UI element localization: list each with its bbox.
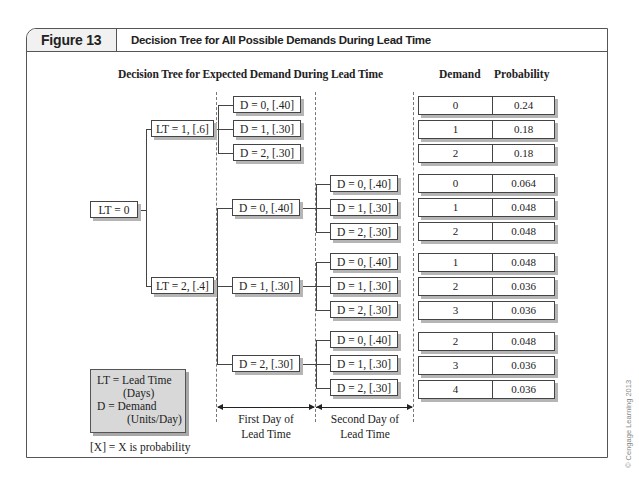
figure-title: Decision Tree for All Possible Demands D… — [131, 29, 431, 51]
connector — [316, 286, 330, 287]
result-probability: 0.24 — [493, 97, 554, 114]
connector — [316, 340, 330, 341]
connector — [300, 286, 316, 287]
second-day-label-line2: Lead Time — [318, 427, 412, 442]
connector — [316, 262, 330, 263]
result-row: 30.036 — [418, 301, 555, 320]
lt2-day2-node: D = 1, [.30] — [330, 277, 398, 294]
result-probability: 0.048 — [493, 223, 554, 240]
result-probability: 0.036 — [493, 357, 554, 374]
result-demand: 3 — [419, 302, 493, 319]
result-row: 10.048 — [418, 198, 555, 217]
result-demand: 1 — [419, 254, 493, 271]
result-row: 10.048 — [418, 253, 555, 272]
legend-lt-unit: (Days) — [97, 387, 185, 400]
result-row: 10.18 — [418, 120, 555, 139]
legend-d: D = Demand — [97, 400, 185, 413]
connector — [218, 153, 234, 154]
legend-d-unit: (Units/Day) — [97, 413, 185, 426]
diagram-title: Decision Tree for Expected Demand During… — [118, 68, 383, 80]
arrow-right-icon — [309, 404, 315, 410]
result-row: 00.24 — [418, 96, 555, 115]
result-demand: 0 — [419, 175, 493, 192]
connector — [138, 210, 146, 211]
lt2-node: LT = 2, [.4] — [151, 277, 214, 294]
connector — [217, 208, 233, 209]
arrow-left-icon — [217, 404, 223, 410]
arrow-left-icon — [316, 404, 322, 410]
connector — [316, 232, 330, 233]
result-demand: 2 — [419, 333, 493, 350]
result-demand: 1 — [419, 199, 493, 216]
figure-header: Figure 13 Decision Tree for All Possible… — [27, 29, 607, 52]
result-probability: 0.036 — [493, 381, 554, 398]
first-day-label: First Day of Lead Time — [222, 412, 310, 442]
lt1-day1-d1: D = 1, [.30] — [233, 120, 301, 137]
result-probability: 0.048 — [493, 199, 554, 216]
lt2-day2-node: D = 2, [.30] — [330, 379, 398, 396]
result-row: 20.18 — [418, 144, 555, 163]
connector — [300, 364, 316, 365]
lt1-node: LT = 1, [.6] — [151, 120, 214, 137]
result-row: 30.036 — [418, 356, 555, 375]
lt2-day2-node: D = 0, [.40] — [330, 331, 398, 348]
lt1-day1-d2: D = 2, [.30] — [233, 144, 301, 161]
result-probability: 0.18 — [493, 121, 554, 138]
lt2-day2-node: D = 0, [.40] — [330, 175, 398, 192]
root-node: LT = 0 — [90, 201, 138, 218]
second-day-span-arrow — [316, 407, 412, 408]
connector — [316, 184, 330, 185]
connector — [218, 105, 234, 106]
result-probability: 0.036 — [493, 278, 554, 295]
connector — [316, 364, 330, 365]
lt2-day2-node: D = 2, [.30] — [330, 223, 398, 240]
result-probability: 0.036 — [493, 302, 554, 319]
probability-column-header: Probability — [494, 68, 549, 80]
first-day-span-arrow — [218, 407, 314, 408]
figure-label: Figure 13 — [27, 29, 117, 51]
lt1-day1-d0: D = 0, [.40] — [233, 96, 301, 113]
result-probability: 0.048 — [493, 254, 554, 271]
copyright-text: © Cengage Learning 2013 — [624, 380, 633, 468]
lt2-day2-node: D = 2, [.30] — [330, 301, 398, 318]
result-demand: 0 — [419, 97, 493, 114]
arrow-right-icon — [407, 404, 413, 410]
second-day-label-line1: Second Day of — [318, 412, 412, 427]
first-day-label-line1: First Day of — [222, 412, 310, 427]
result-probability: 0.048 — [493, 333, 554, 350]
connector — [217, 286, 233, 287]
connector — [300, 208, 316, 209]
result-demand: 1 — [419, 121, 493, 138]
lt2-day2-node: D = 1, [.30] — [330, 199, 398, 216]
result-demand: 4 — [419, 381, 493, 398]
legend-lt: LT = Lead Time — [97, 374, 185, 387]
result-row: 20.036 — [418, 277, 555, 296]
result-row: 20.048 — [418, 332, 555, 351]
lt2-day1-d0: D = 0, [.40] — [232, 199, 300, 216]
lt2-day2-node: D = 0, [.40] — [330, 253, 398, 270]
legend-box: LT = Lead Time (Days) D = Demand (Units/… — [90, 369, 186, 433]
result-demand: 2 — [419, 145, 493, 162]
result-demand: 2 — [419, 223, 493, 240]
result-demand: 3 — [419, 357, 493, 374]
probability-note: [X] = X is probability — [90, 441, 190, 453]
result-demand: 2 — [419, 278, 493, 295]
lt2-day1-d1: D = 1, [.30] — [232, 277, 300, 294]
first-day-label-line2: Lead Time — [222, 427, 310, 442]
connector — [316, 310, 330, 311]
connector — [218, 129, 234, 130]
day2-end-divider — [413, 92, 414, 422]
second-day-label: Second Day of Lead Time — [318, 412, 412, 442]
result-probability: 0.18 — [493, 145, 554, 162]
result-row: 40.036 — [418, 380, 555, 399]
result-row: 00.064 — [418, 174, 555, 193]
lt2-day2-node: D = 1, [.30] — [330, 355, 398, 372]
connector — [146, 129, 147, 286]
connector — [217, 364, 233, 365]
demand-column-header: Demand — [439, 68, 481, 80]
connector — [316, 388, 330, 389]
lt2-day1-d2: D = 2, [.30] — [232, 355, 300, 372]
connector — [316, 208, 330, 209]
result-row: 20.048 — [418, 222, 555, 241]
result-probability: 0.064 — [493, 175, 554, 192]
